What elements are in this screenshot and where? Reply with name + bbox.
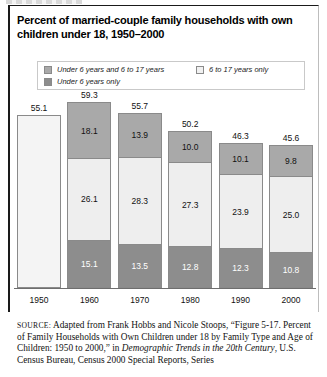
bar-segment-under6: 13.5 bbox=[119, 245, 161, 287]
page-edge-artifact bbox=[6, 0, 82, 4]
bar-column: 50.210.027.312.8 bbox=[168, 100, 212, 288]
legend-swatch-both-icon bbox=[44, 66, 52, 74]
source-label: SOURCE: bbox=[17, 321, 51, 330]
bar-segment-plain bbox=[18, 116, 60, 287]
bar-total-label: 50.2 bbox=[168, 119, 212, 129]
bar-group: 55.159.318.126.115.155.713.928.313.550.2… bbox=[17, 100, 313, 288]
x-axis-label: 1950 bbox=[17, 295, 61, 305]
bar-segment-older: 26.1 bbox=[68, 159, 110, 240]
x-axis-label: 1980 bbox=[168, 295, 212, 305]
bar-total-label: 55.1 bbox=[17, 103, 61, 113]
chart-plot-area: 55.159.318.126.115.155.713.928.313.550.2… bbox=[17, 100, 313, 296]
source-italic-title: Demographic Trends in the 20th Century bbox=[122, 343, 275, 353]
bar-total-label: 59.3 bbox=[67, 90, 111, 100]
bar-segment-both: 9.8 bbox=[270, 146, 312, 177]
bar-total-label: 55.7 bbox=[118, 101, 162, 111]
bar-total-label: 46.3 bbox=[219, 131, 263, 141]
bar-segment-older: 25.0 bbox=[270, 177, 312, 254]
figure-title: Percent of married-couple family househo… bbox=[17, 13, 307, 41]
bar-stack: 10.027.312.8 bbox=[168, 131, 212, 288]
bar-stack: 9.825.010.8 bbox=[269, 145, 313, 288]
bar-segment-under6: 15.1 bbox=[68, 241, 110, 287]
legend-item-under6-only: Under 6 years only bbox=[44, 77, 120, 86]
legend-label-under6-only: Under 6 years only bbox=[57, 77, 120, 86]
bar-segment-under6: 12.3 bbox=[220, 249, 262, 287]
x-axis-label: 1970 bbox=[118, 295, 162, 305]
legend-item-both: Under 6 years and 6 to 17 years bbox=[44, 65, 164, 74]
bar-column: 55.713.928.313.5 bbox=[118, 100, 162, 288]
bar-segment-under6: 10.8 bbox=[270, 253, 312, 287]
legend-label-both: Under 6 years and 6 to 17 years bbox=[57, 65, 164, 74]
figure-container: Percent of married-couple family househo… bbox=[0, 0, 327, 377]
bar-segment-both: 10.0 bbox=[169, 132, 211, 163]
x-axis-labels: 195019601970198019902000 bbox=[17, 295, 313, 305]
bar-column: 45.69.825.010.8 bbox=[269, 100, 313, 288]
bar-segment-both: 10.1 bbox=[220, 144, 262, 175]
chart-legend: Under 6 years and 6 to 17 years 6 to 17 … bbox=[37, 61, 305, 90]
bar-segment-older: 23.9 bbox=[220, 175, 262, 248]
bar-stack: 13.928.313.5 bbox=[118, 113, 162, 288]
legend-label-older-only: 6 to 17 years only bbox=[209, 65, 268, 74]
bar-segment-older: 28.3 bbox=[119, 158, 161, 246]
bar-column: 46.310.123.912.3 bbox=[219, 100, 263, 288]
bar-column: 59.318.126.115.1 bbox=[67, 100, 111, 288]
bar-segment-under6: 12.8 bbox=[169, 247, 211, 287]
legend-swatch-older-only-icon bbox=[196, 66, 204, 74]
bar-column: 55.1 bbox=[17, 100, 61, 288]
bar-stack: 10.123.912.3 bbox=[219, 143, 263, 288]
legend-swatch-under6-only-icon bbox=[44, 78, 52, 86]
bar-total-label: 45.6 bbox=[269, 133, 313, 143]
source-note: SOURCE: Adapted from Frank Hobbs and Nic… bbox=[17, 320, 314, 366]
bar-segment-both: 18.1 bbox=[68, 103, 110, 159]
bar-stack: 18.126.115.1 bbox=[67, 102, 111, 288]
x-axis-line bbox=[14, 288, 316, 289]
x-axis-label: 1990 bbox=[219, 295, 263, 305]
x-axis-label: 1960 bbox=[67, 295, 111, 305]
bar-stack bbox=[17, 115, 61, 288]
bar-segment-older: 27.3 bbox=[169, 163, 211, 247]
legend-item-older-only: 6 to 17 years only bbox=[196, 65, 268, 74]
bar-segment-both: 13.9 bbox=[119, 114, 161, 158]
x-axis-label: 2000 bbox=[269, 295, 313, 305]
